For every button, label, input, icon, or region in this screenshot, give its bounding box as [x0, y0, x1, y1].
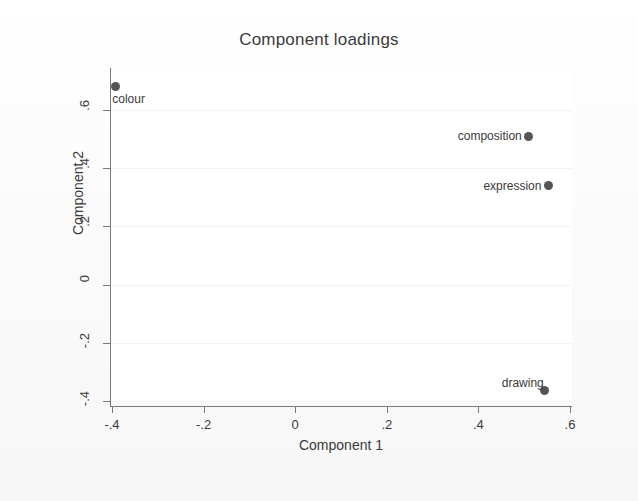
y-axis-tick: [103, 168, 110, 169]
y-axis-line: [110, 68, 111, 406]
x-axis-tick: [112, 406, 113, 413]
x-axis-tick-label: .4: [473, 417, 484, 432]
y-axis-tick: [103, 285, 110, 286]
chart-page: Component loadings Component 2 Component…: [0, 0, 638, 501]
y-axis-tick: [103, 226, 110, 227]
y-axis-tick-label: -.4: [77, 391, 92, 487]
gridline-y: [110, 401, 572, 402]
x-axis-line: [110, 406, 572, 407]
x-axis-tick-label: -.4: [104, 417, 119, 432]
x-axis-tick-label: 0: [292, 417, 299, 432]
x-axis-tick: [478, 406, 479, 413]
y-axis-tick: [103, 343, 110, 344]
y-axis-tick: [103, 401, 110, 402]
gridline-y: [110, 226, 572, 227]
data-point-label: composition: [458, 129, 522, 143]
data-point-marker: [111, 82, 120, 91]
x-axis-tick-label: .2: [381, 417, 392, 432]
gridline-y: [110, 110, 572, 111]
gridline-y: [110, 343, 572, 344]
gridline-y: [110, 285, 572, 286]
x-axis-title: Component 1: [110, 437, 572, 453]
x-axis-tick: [295, 406, 296, 413]
data-point-label: expression: [483, 179, 541, 193]
plot-area: [110, 68, 572, 403]
x-axis-tick: [204, 406, 205, 413]
page-title: Component loadings: [0, 30, 638, 50]
data-point-marker: [524, 132, 533, 141]
x-axis-tick-label: .6: [565, 417, 576, 432]
data-point-label: drawing: [502, 376, 544, 390]
data-point-label: colour: [112, 92, 145, 106]
y-axis-tick: [103, 110, 110, 111]
gridline-y: [110, 168, 572, 169]
x-axis-tick: [387, 406, 388, 413]
x-axis-tick-label: -.2: [196, 417, 211, 432]
x-axis-tick: [570, 406, 571, 413]
